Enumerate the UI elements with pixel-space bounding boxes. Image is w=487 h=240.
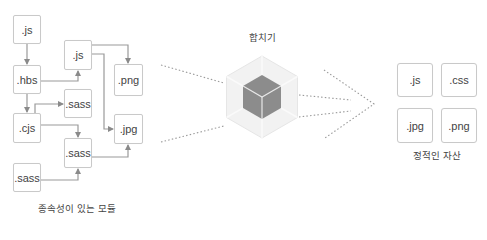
asset-js: .js — [397, 63, 433, 97]
asset-label: .css — [449, 74, 469, 86]
asset-label: .jpg — [406, 120, 424, 132]
assets-caption: 정적인 자산 — [397, 148, 477, 162]
asset-label: .png — [448, 120, 469, 132]
asset-label: .js — [410, 74, 421, 86]
asset-png: .png — [441, 108, 477, 143]
asset-jpg: .jpg — [397, 108, 433, 143]
asset-css: .css — [441, 63, 477, 97]
